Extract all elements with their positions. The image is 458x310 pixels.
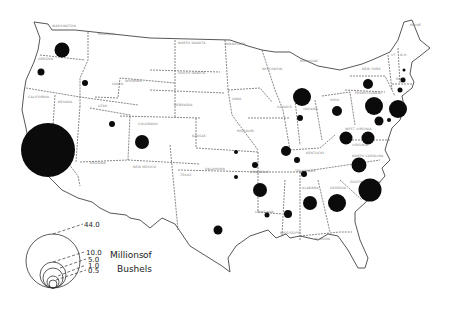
symbol-michigan bbox=[293, 88, 311, 106]
symbol-mississippi bbox=[284, 210, 292, 218]
symbol-new-hampshire bbox=[403, 69, 406, 72]
symbol-washington bbox=[55, 43, 70, 58]
symbol-texas bbox=[214, 226, 223, 235]
symbol-new-york bbox=[363, 79, 373, 89]
state-label: MISSOURI bbox=[237, 129, 254, 133]
legend-circle-5 bbox=[43, 268, 63, 288]
state-label: NEW YORK bbox=[362, 67, 381, 71]
state-label: OHIO bbox=[330, 98, 339, 102]
state-label: PENNSYLVANIA bbox=[355, 91, 382, 95]
state-label: VT bbox=[391, 53, 396, 57]
symbol-idaho bbox=[82, 80, 88, 86]
state-label: NEBRASKA bbox=[174, 103, 193, 107]
legend: 44.0 10.0 5.0 1.0 0.5 Millions of Bushel… bbox=[26, 221, 153, 288]
state-label: MAINE bbox=[410, 23, 421, 27]
legend-circle-0-5 bbox=[49, 280, 57, 288]
state-label: WASHINGTON bbox=[52, 24, 77, 28]
state-label: CALIFORNIA bbox=[28, 95, 50, 99]
state-label: NORTH DAKOTA bbox=[178, 41, 206, 45]
state-label: COLORADO bbox=[138, 122, 158, 126]
symbol-south-carolina bbox=[359, 179, 382, 202]
legend-value-44: 44.0 bbox=[84, 221, 100, 229]
state-label: WISCONSIN bbox=[262, 67, 283, 71]
state-label: ARKANSAS bbox=[250, 170, 269, 174]
symbol-maryland bbox=[375, 117, 384, 126]
state-label: MONTANA bbox=[98, 32, 116, 36]
state-label: MICHIGAN bbox=[300, 59, 318, 63]
state-label: UTAH bbox=[98, 104, 108, 108]
state-label: WYOMING bbox=[125, 79, 143, 83]
symbol-louisiana bbox=[265, 213, 270, 218]
state-label: ALABAMA bbox=[302, 186, 320, 190]
symbol-utah bbox=[109, 121, 115, 127]
symbol-connecticut bbox=[398, 88, 403, 93]
symbol-delaware bbox=[387, 118, 391, 122]
state-label: KANSAS bbox=[192, 134, 206, 138]
us-outline bbox=[22, 20, 430, 272]
symbol-california bbox=[21, 123, 75, 177]
symbol-north-carolina bbox=[352, 158, 367, 173]
legend-circle-10 bbox=[40, 262, 66, 288]
state-label: OKLAHOMA bbox=[205, 167, 226, 171]
state-labels: WASHINGTONOREGONCALIFORNIANEVADAIDAHOMON… bbox=[28, 23, 421, 241]
state-label: GEORGIA bbox=[330, 186, 347, 190]
symbol-oregon bbox=[38, 69, 45, 76]
symbol-indiana bbox=[297, 115, 303, 121]
state-label: ARIZONA bbox=[90, 161, 107, 165]
state-label: IDAHO bbox=[112, 82, 124, 86]
state-boundaries bbox=[26, 32, 412, 240]
state-label: NORTH CAROLINA bbox=[352, 154, 384, 158]
symbol-west-virginia bbox=[340, 132, 353, 145]
symbol-oklahoma bbox=[234, 175, 238, 179]
state-label: N.H. bbox=[400, 53, 408, 57]
symbol-new-jersey bbox=[389, 100, 407, 118]
state-label: SOUTH DAKOTA bbox=[178, 71, 206, 75]
us-map: WASHINGTONOREGONCALIFORNIANEVADAIDAHOMON… bbox=[0, 0, 458, 310]
legend-value-0-5: 0.5 bbox=[88, 267, 99, 275]
state-label: WEST VIRGINIA bbox=[345, 127, 373, 131]
symbol-tennessee bbox=[301, 171, 307, 177]
state-label: TEXAS bbox=[179, 173, 191, 177]
state-label: LOUISIANA bbox=[255, 210, 275, 214]
state-label: MISSISSIPPI bbox=[280, 231, 301, 235]
symbol-kansas bbox=[234, 150, 238, 154]
state-label: INDIANA bbox=[303, 107, 318, 111]
state-label: NEVADA bbox=[58, 100, 73, 104]
state-label: MINNESOTA bbox=[225, 42, 246, 46]
state-label: OREGON bbox=[38, 57, 54, 61]
legend-unit-line3: Bushels bbox=[117, 264, 152, 274]
state-label: IOWA bbox=[232, 97, 242, 101]
legend-circle-1 bbox=[47, 276, 59, 288]
legend-unit-line2: of bbox=[143, 250, 153, 260]
symbol-colorado bbox=[135, 135, 149, 149]
state-label: NEW MEXICO bbox=[133, 165, 156, 169]
symbol-georgia bbox=[328, 194, 346, 212]
symbol-pennsylvania bbox=[365, 97, 383, 115]
legend-unit-line1: Millions bbox=[110, 250, 144, 260]
state-label: KENTUCKY bbox=[306, 151, 325, 155]
symbol-virginia bbox=[362, 132, 375, 145]
symbol-alabama bbox=[303, 196, 317, 210]
state-label: FLORIDA bbox=[315, 237, 331, 241]
state-label: ILLINOIS bbox=[277, 105, 292, 109]
symbol-massachusetts bbox=[401, 78, 406, 83]
symbol-illinois bbox=[281, 146, 291, 156]
symbol-missouri bbox=[252, 162, 258, 168]
production-symbols bbox=[21, 43, 407, 235]
symbol-arkansas bbox=[253, 183, 267, 197]
symbol-ohio bbox=[332, 106, 342, 116]
symbol-kentucky bbox=[294, 157, 300, 163]
